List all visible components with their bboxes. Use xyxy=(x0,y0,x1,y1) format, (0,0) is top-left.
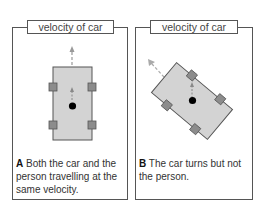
caption-text-a: Both the car and the person travelling a… xyxy=(16,158,117,195)
wheel-rear-right-a xyxy=(88,121,96,129)
car-velocity-arrowhead-b xyxy=(148,59,155,66)
velocity-label-a: velocity of car xyxy=(27,20,114,34)
person-b xyxy=(189,97,196,104)
car-velocity-arrowhead-a xyxy=(70,46,75,52)
caption-b: B The car turns but not the person. xyxy=(139,157,251,183)
car-velocity-arrow-b xyxy=(152,64,164,77)
caption-letter-a: A xyxy=(16,158,23,169)
wheel-front-left-a xyxy=(49,83,57,91)
person-a xyxy=(69,102,76,109)
wheel-front-right-a xyxy=(88,83,96,91)
caption-letter-b: B xyxy=(139,158,146,169)
wheel-rear-left-a xyxy=(49,121,57,129)
caption-a: A Both the car and the person travelling… xyxy=(16,157,126,196)
caption-text-b: The car turns but not the person. xyxy=(139,158,241,182)
car-b xyxy=(148,59,235,142)
velocity-label-b: velocity of car xyxy=(150,20,238,34)
car-a xyxy=(49,46,96,140)
